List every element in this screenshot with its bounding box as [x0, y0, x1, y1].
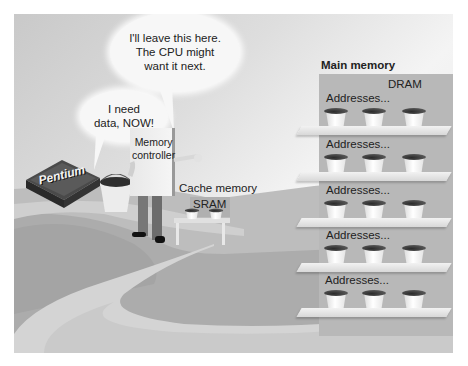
shelf-address-label: Addresses...: [325, 274, 389, 286]
shelf-address-label: Addresses...: [326, 229, 390, 241]
dram-bucket: [402, 108, 426, 126]
controller-bubble-tail: [154, 84, 184, 134]
dram-shelf: [296, 126, 451, 135]
controller-speech-text: I'll leave this here. The CPU might want…: [129, 31, 221, 73]
dram-bucket: [362, 290, 386, 308]
cache-memory-title: Cache memory: [179, 182, 257, 194]
dram-bucket: [324, 154, 348, 172]
cache-table-leg: [222, 223, 225, 245]
cache-bucket: [209, 209, 223, 220]
dram-shelf: [296, 172, 451, 181]
dram-bucket: [362, 154, 386, 172]
dram-bucket: [324, 245, 348, 263]
dram-shelf: [296, 218, 451, 227]
left-shoe: [132, 232, 146, 237]
right-shoe: [155, 236, 165, 243]
dram-bucket: [402, 200, 426, 218]
cache-table-leg: [176, 223, 179, 245]
controller-arms-icon: [110, 154, 210, 184]
controller-speech-bubble: I'll leave this here. The CPU might want…: [110, 14, 240, 92]
main-memory-type-label: DRAM: [388, 78, 422, 90]
dram-bucket: [362, 245, 386, 263]
dram-bucket: [324, 108, 348, 126]
controller-right-leg: [152, 196, 162, 240]
dram-bucket: [362, 200, 386, 218]
dram-bucket: [362, 108, 386, 126]
dram-bucket: [324, 290, 348, 308]
shelf-address-label: Addresses...: [326, 92, 390, 104]
controller-left-leg: [138, 196, 148, 236]
shelf-address-label: Addresses...: [326, 138, 390, 150]
shelf-address-label: Addresses...: [326, 184, 390, 196]
main-memory-title: Main memory: [321, 59, 395, 71]
cache-bucket: [185, 209, 199, 220]
dram-bucket: [402, 245, 426, 263]
dram-bucket: [324, 200, 348, 218]
cpu-speech-text: I need data, NOW!: [94, 102, 154, 130]
dram-shelf: [296, 308, 451, 317]
dram-bucket: [402, 290, 426, 308]
dram-bucket: [402, 154, 426, 172]
dram-shelf: [296, 263, 451, 272]
memory-hierarchy-illustration: I need data, NOW! I'll leave this here. …: [14, 14, 453, 353]
